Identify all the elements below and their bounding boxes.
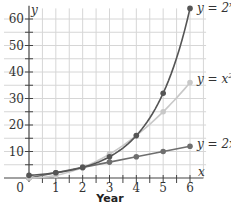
x-tick-label: 5 bbox=[159, 181, 167, 195]
data-point bbox=[160, 149, 166, 155]
growth-chart: 0123456102030405060 y = 2xy = x2y = 2x Y… bbox=[0, 0, 231, 208]
data-point bbox=[80, 165, 86, 171]
y-tick-label: 20 bbox=[9, 118, 24, 132]
y-tick-label: 30 bbox=[9, 92, 24, 106]
data-point bbox=[107, 154, 113, 160]
data-point bbox=[53, 170, 59, 176]
y-tick-label: 10 bbox=[9, 145, 24, 159]
curve-labels: y = 2xy = x2y = 2x bbox=[196, 0, 231, 151]
data-point bbox=[160, 109, 166, 115]
data-point bbox=[134, 133, 140, 139]
y-axis-letter: y bbox=[30, 3, 38, 17]
data-point bbox=[187, 80, 193, 86]
data-point bbox=[187, 6, 193, 12]
curve-label: y = 2x bbox=[196, 0, 231, 15]
curve-label: y = 2x bbox=[196, 137, 231, 151]
x-axis-letter: x bbox=[198, 165, 205, 179]
y-tick-label: 60 bbox=[9, 12, 24, 26]
x-tick-label: 1 bbox=[52, 181, 60, 195]
data-point bbox=[26, 173, 32, 179]
x-tick-label: 4 bbox=[133, 181, 141, 195]
x-axis-title: Year bbox=[95, 192, 124, 205]
data-point bbox=[134, 154, 140, 160]
y-tick-label: 40 bbox=[9, 65, 24, 79]
x-tick-label: 6 bbox=[186, 181, 194, 195]
x-tick-label: 0 bbox=[16, 181, 24, 195]
y-tick-label: 50 bbox=[9, 39, 24, 53]
data-point bbox=[107, 159, 113, 165]
curve-label: y = x2 bbox=[196, 71, 231, 86]
data-point bbox=[187, 143, 193, 149]
data-point bbox=[160, 90, 166, 96]
x-tick-label: 2 bbox=[79, 181, 87, 195]
axis-ticks: 0123456102030405060 bbox=[9, 12, 194, 195]
grid-lines bbox=[4, 8, 206, 178]
